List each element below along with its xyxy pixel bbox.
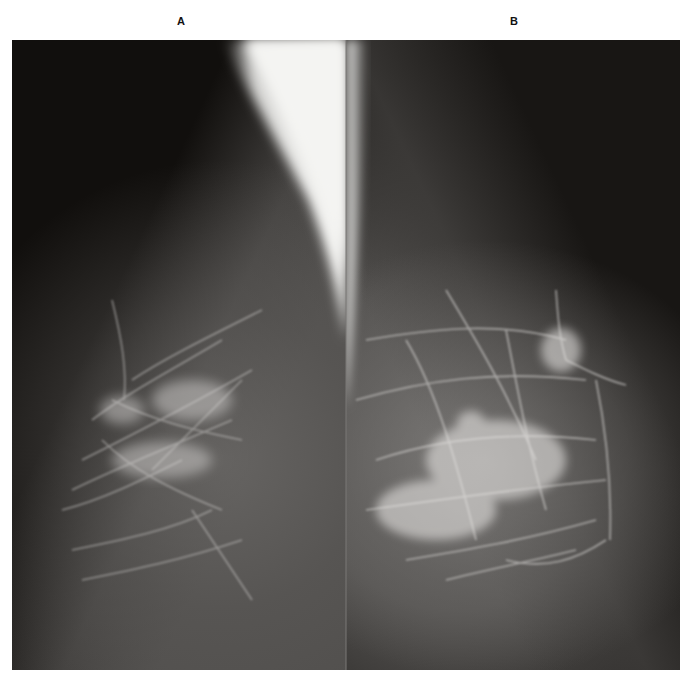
mammogram-panel-b [346, 40, 680, 670]
panel-label-a: A [171, 15, 191, 27]
pectoral-edge-b [346, 40, 680, 670]
pectoral-muscle-a [12, 40, 346, 670]
mammogram-figure [12, 40, 680, 670]
panel-label-b: B [504, 15, 524, 27]
mammogram-panel-a [12, 40, 346, 670]
panel-divider [345, 40, 347, 670]
